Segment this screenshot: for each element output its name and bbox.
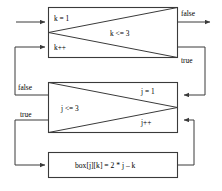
body-statement-label: box[j][k] = 2 * j – k bbox=[75, 161, 136, 170]
outer-init-label: k = 1 bbox=[54, 14, 70, 23]
inner-true-edge bbox=[15, 120, 49, 165]
inner-increment-label: j++ bbox=[140, 118, 151, 127]
inner-condition-label: j <= 3 bbox=[60, 104, 79, 113]
outer-true-label: true bbox=[181, 56, 193, 65]
inner-true-label: true bbox=[20, 110, 32, 119]
inner-init-label: j = 1 bbox=[140, 87, 155, 96]
outer-increment-label: k++ bbox=[54, 43, 66, 52]
flowchart-diagram: k = 1 k++ k <= 3 false true j = 1 j++ j … bbox=[0, 0, 222, 191]
body-to-increment-edge bbox=[178, 120, 195, 165]
flowchart-canvas: k = 1 k++ k <= 3 false true j = 1 j++ j … bbox=[0, 0, 222, 191]
outer-false-label: false bbox=[181, 9, 196, 18]
outer-condition-label: k <= 3 bbox=[110, 29, 130, 38]
inner-false-label: false bbox=[18, 83, 33, 92]
outer-true-edge bbox=[178, 47, 206, 95]
